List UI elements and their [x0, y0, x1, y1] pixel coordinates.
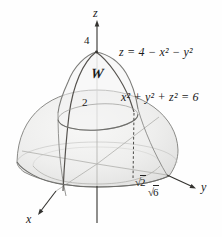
x-axis-arrowhead — [38, 209, 43, 215]
solid-region-figure: z 4 W 2 z = 4 − x² − y² x² + y² + z² = 6… — [0, 0, 222, 237]
paraboloid-equation: z = 4 − x² − y² — [119, 46, 193, 58]
sqrt6-label: √6 — [148, 185, 159, 198]
x-axis-label: x — [26, 213, 31, 225]
sphere-equation: x² + y² + z² = 6 — [121, 91, 199, 103]
z-axis-label: z — [93, 7, 98, 19]
circle-value-label: 2 — [82, 97, 88, 108]
sqrt2-label: √2 — [135, 175, 146, 188]
x-axis-outer — [40, 191, 56, 212]
diagram-canvas — [0, 0, 222, 237]
sqrt6-radicand: 6 — [153, 185, 159, 198]
z-axis-arrowhead — [95, 20, 100, 27]
sqrt2-radicand: 2 — [140, 175, 146, 188]
region-label: W — [90, 67, 104, 81]
y-axis-outer — [167, 175, 191, 186]
apex-value-label: 4 — [84, 35, 90, 46]
y-axis-label: y — [201, 181, 206, 193]
y-axis-arrowhead — [190, 184, 197, 189]
